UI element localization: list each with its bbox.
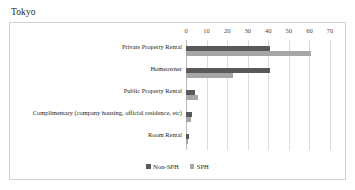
legend-swatch-icon xyxy=(146,164,151,169)
chart-legend: Non-SPHSPH xyxy=(10,163,345,170)
x-tick-label: 10 xyxy=(203,27,210,34)
category-label: Public Property Rental xyxy=(16,87,182,95)
bar-non-sph xyxy=(186,68,270,73)
category-label: Complimentary (company housing, official… xyxy=(16,109,182,117)
x-tick-label: 40 xyxy=(265,27,272,34)
bar-non-sph xyxy=(186,134,189,139)
x-tick-label: 60 xyxy=(306,27,313,34)
legend-swatch-icon xyxy=(190,164,195,169)
bar-group: Room Rental xyxy=(186,128,330,150)
bar-group: Private Property Rental xyxy=(186,40,330,62)
legend-label: SPH xyxy=(197,163,209,170)
chart-frame: 010203040506070 Private Property RentalH… xyxy=(9,22,346,180)
legend-item: Non-SPH xyxy=(146,163,179,170)
category-label: Private Property Rental xyxy=(16,43,182,51)
category-label: Room Rental xyxy=(16,131,182,139)
x-tick-label: 0 xyxy=(184,27,187,34)
bar-sph xyxy=(186,117,191,122)
bar-group: Complimentary (company housing, official… xyxy=(186,106,330,128)
bar-group: Homeowner xyxy=(186,62,330,84)
legend-label: Non-SPH xyxy=(153,163,179,170)
legend-item: SPH xyxy=(190,163,209,170)
bar-non-sph xyxy=(186,112,192,117)
category-label: Homeowner xyxy=(16,65,182,73)
figure-title: Tokyo xyxy=(9,6,346,18)
bar-non-sph xyxy=(186,46,270,51)
x-tick-label: 20 xyxy=(224,27,231,34)
bar-non-sph xyxy=(186,90,195,95)
bar-sph xyxy=(186,51,311,56)
figure-container: Tokyo 010203040506070 Private Property R… xyxy=(0,0,355,190)
x-tick-label: 30 xyxy=(244,27,251,34)
bar-sph xyxy=(186,139,188,144)
bar-sph xyxy=(186,95,198,100)
gridline-70 xyxy=(330,40,331,150)
bar-sph xyxy=(186,73,233,78)
bar-group: Public Property Rental xyxy=(186,84,330,106)
x-tick-label: 70 xyxy=(327,27,334,34)
plot-area: 010203040506070 Private Property RentalH… xyxy=(186,40,330,150)
x-tick-label: 50 xyxy=(286,27,293,34)
